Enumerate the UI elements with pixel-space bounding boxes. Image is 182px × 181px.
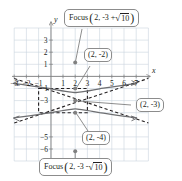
center-callout: (2, -3) bbox=[136, 98, 164, 112]
focus-top-radicand: 10 bbox=[120, 13, 129, 23]
hyperbola-figure: −3 −2 −1 1 2 3 4 5 6 7 3 2 1 −1 −3 −5 −6… bbox=[0, 0, 182, 181]
y-tick-minus3: −3 bbox=[40, 96, 48, 105]
center-point bbox=[73, 99, 77, 103]
focus-top-paren-close: ) bbox=[130, 12, 134, 24]
x-axis-label: x bbox=[151, 66, 156, 75]
y-tick-minus5: −5 bbox=[40, 133, 48, 142]
focus-upper-point bbox=[73, 60, 77, 64]
x-tick-5: 5 bbox=[110, 79, 114, 88]
leader-vertex-lower bbox=[76, 113, 88, 131]
leader-center bbox=[77, 101, 131, 105]
x-tick-7: 7 bbox=[134, 79, 138, 88]
leader-focus-top bbox=[76, 29, 82, 61]
focus-top-radical: √10 bbox=[115, 14, 129, 23]
focus-bottom-x: 2, bbox=[69, 163, 75, 171]
focus-top-label: Focus bbox=[69, 14, 88, 22]
focus-bottom-paren-open: ( bbox=[64, 161, 68, 173]
x-tick-2: 2 bbox=[73, 79, 77, 88]
focus-bottom-y-prefix: -3 - bbox=[77, 163, 88, 171]
x-tick-1: 1 bbox=[61, 79, 65, 88]
vertex-upper-callout: (2, -2) bbox=[84, 48, 112, 62]
x-tick-6: 6 bbox=[122, 79, 126, 88]
y-tick-3: 3 bbox=[44, 36, 48, 45]
y-tick-1: 1 bbox=[44, 60, 48, 69]
focus-top-callout: Focus ( 2, -3 + √10 ) bbox=[64, 9, 139, 27]
x-tick-minus3: −3 bbox=[10, 79, 18, 88]
coordinate-plot: −3 −2 −1 1 2 3 4 5 6 7 3 2 1 −1 −3 −5 −6… bbox=[0, 0, 182, 181]
y-tick-2: 2 bbox=[44, 48, 48, 57]
x-tick-4: 4 bbox=[98, 79, 102, 88]
focus-bottom-radicand: 10 bbox=[93, 162, 102, 172]
y-tick-minus6: −6 bbox=[40, 145, 48, 154]
vertex-lower-callout: (2, -4) bbox=[82, 131, 110, 145]
y-axis-label: y bbox=[53, 15, 58, 24]
focus-bottom-label: Focus bbox=[44, 163, 63, 171]
focus-top-y-prefix: -3 + bbox=[102, 14, 115, 22]
focus-top-x: 2, bbox=[94, 14, 100, 22]
y-tick-labels: 3 2 1 −1 −3 −5 −6 −7 bbox=[40, 36, 48, 166]
focus-lower-point bbox=[73, 149, 77, 153]
x-tick-minus2: −2 bbox=[22, 79, 30, 88]
focus-bottom-paren-close: ) bbox=[103, 161, 107, 173]
x-tick-3: 3 bbox=[86, 79, 90, 88]
focus-bottom-radical: √10 bbox=[88, 163, 102, 172]
focus-bottom-callout: Focus ( 2, -3 - √10 ) bbox=[39, 158, 112, 176]
focus-top-paren-open: ( bbox=[89, 12, 93, 24]
y-tick-minus1: −1 bbox=[40, 84, 48, 93]
